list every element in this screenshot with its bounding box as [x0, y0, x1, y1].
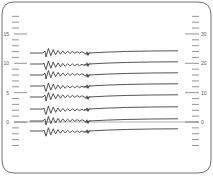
waveform-trace — [30, 93, 178, 102]
trace-group — [14, 49, 199, 137]
left-scale-label: 15 — [3, 31, 9, 37]
right-scale-label: 10 — [201, 90, 207, 96]
waveform-trace — [30, 61, 178, 70]
waveform-trace — [30, 128, 178, 137]
waveform-trace — [30, 106, 178, 115]
waveform-trace — [30, 71, 178, 80]
left-scale: 151050 — [3, 16, 27, 145]
figure-frame — [2, 2, 211, 173]
waveform-trace — [30, 83, 178, 92]
right-scale: 3020100 — [185, 16, 207, 145]
waveform-trace — [30, 117, 178, 126]
left-scale-label: 0 — [6, 119, 9, 125]
left-scale-label: 5 — [6, 90, 9, 96]
waveform-svg: 151050 3020100 — [0, 0, 213, 176]
right-scale-label: 20 — [201, 60, 207, 66]
waveform-trace — [30, 49, 178, 58]
right-scale-label: 30 — [201, 31, 207, 37]
right-scale-label: 0 — [201, 119, 204, 125]
left-scale-label: 10 — [3, 60, 9, 66]
waveform-figure: 151050 3020100 — [0, 0, 213, 176]
